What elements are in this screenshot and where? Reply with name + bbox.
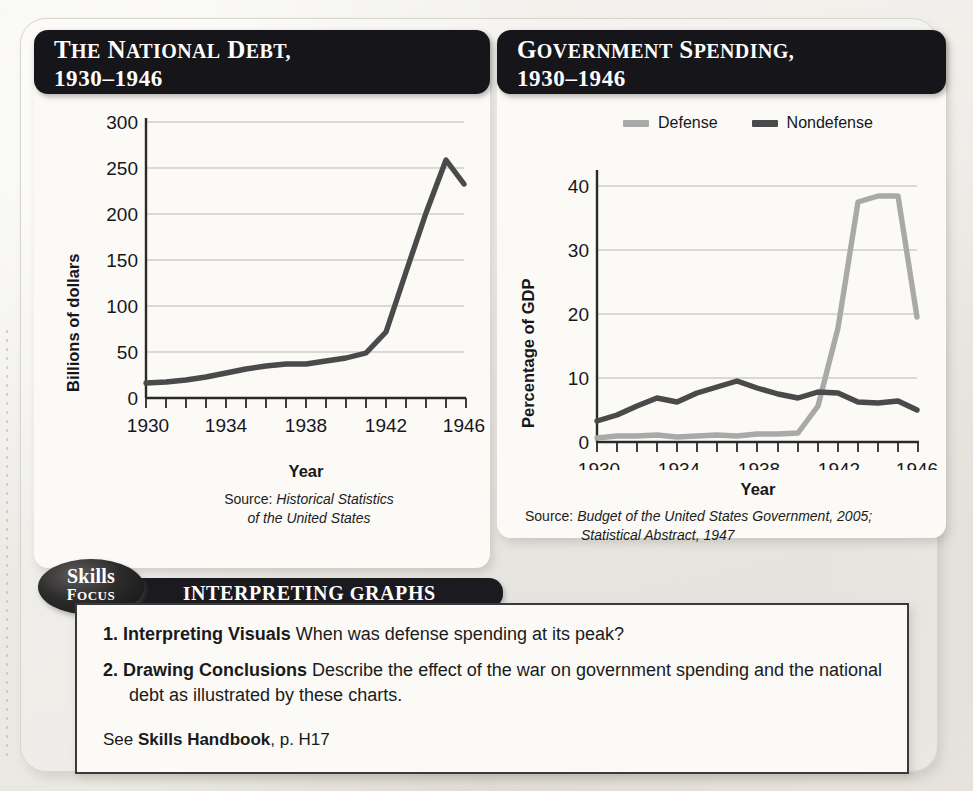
question-item-1: 1. Interpreting Visuals When was defense… [103,622,889,647]
legend-swatch-defense [623,120,649,127]
chart-title-line1: THE NATIONAL DEBT, [54,36,291,63]
national-debt-line [146,160,464,383]
government-spending-x-axis-title: Year [597,480,919,499]
svg-text:300: 300 [106,112,138,133]
y-tick-labels: 40 30 20 10 0 [568,176,589,453]
svg-text:200: 200 [106,204,138,225]
skills-badge-line2: FOCUS [38,586,144,604]
chart-title-bar-government-spending: GOVERNMENT SPENDING, 1930–1946 [497,30,946,94]
svg-text:40: 40 [568,176,589,197]
x-tick-labels: 1930 1934 1938 1942 1946 [127,415,485,436]
x-minor-ticks [597,442,918,452]
source-line-1: Historical Statistics [276,491,393,507]
see-link-label[interactable]: Skills Handbook [138,730,270,749]
x-tick-labels: 1930 1934 1938 1942 1946 [578,459,938,470]
nondefense-line [597,381,917,421]
legend-item-nondefense[interactable]: Nondefense [752,114,873,132]
svg-text:150: 150 [106,250,138,271]
chart-title-line2: 1930–1946 [517,66,936,91]
page-edge-artifact [6,330,8,760]
national-debt-y-axis-title: Billions of dollars [64,254,83,392]
legend-item-defense[interactable]: Defense [623,114,718,132]
svg-text:1942: 1942 [818,459,860,470]
question-2-number: 2. [103,660,118,680]
government-spending-legend: Defense Nondefense [623,114,873,132]
chart-panel-government-spending: GOVERNMENT SPENDING, 1930–1946 Defense N… [497,30,946,538]
national-debt-source: Source: Historical Statistics of the Uni… [144,490,474,528]
chart-title-line1: GOVERNMENT SPENDING, [517,36,794,63]
svg-text:1930: 1930 [578,459,620,470]
source-line-2: of the United States [248,510,371,526]
chart-panel-national-debt: THE NATIONAL DEBT, 1930–1946 [34,30,490,568]
government-spending-y-axis-title: Percentage of GDP [519,279,538,428]
svg-text:1938: 1938 [285,415,327,436]
national-debt-plot: 300 250 200 150 100 50 0 1930 1934 1938 … [34,94,490,454]
chart-title-bar-national-debt: THE NATIONAL DEBT, 1930–1946 [34,30,490,94]
svg-text:1942: 1942 [365,415,407,436]
source-label: Source: [224,491,272,507]
x-minor-ticks [146,398,466,408]
svg-text:20: 20 [568,304,589,325]
national-debt-x-axis-title: Year [146,462,466,481]
svg-text:1946: 1946 [443,415,485,436]
svg-text:10: 10 [568,368,589,389]
question-1-term: Interpreting Visuals [123,624,291,644]
gridlines [597,186,917,378]
questions-list: 1. Interpreting Visuals When was defense… [103,622,889,719]
svg-text:0: 0 [127,388,138,409]
svg-text:1946: 1946 [896,459,938,470]
skills-badge-line1: Skills [38,565,144,588]
questions-box: 1. Interpreting Visuals When was defense… [75,603,909,774]
question-item-2: 2. Drawing Conclusions Describe the effe… [103,658,889,708]
legend-swatch-nondefense [752,120,778,127]
svg-text:250: 250 [106,158,138,179]
government-spending-source: Source: Budget of the United States Gove… [525,507,935,545]
question-1-text: When was defense spending at its peak? [296,624,624,644]
chart-title-government-spending: GOVERNMENT SPENDING, 1930–1946 [517,37,936,91]
source-line-1: Budget of the United States Government, … [577,508,872,524]
ribbon-text: INTERPRETING GRAPHS [183,583,436,604]
svg-text:1934: 1934 [658,459,701,470]
legend-label-nondefense: Nondefense [787,114,873,132]
see-suffix: , p. H17 [270,730,330,749]
svg-text:0: 0 [578,432,589,453]
svg-text:1938: 1938 [738,459,780,470]
government-spending-plot: 40 30 20 10 0 1930 1934 1938 1942 1946 [497,140,946,470]
skills-focus-ribbon-label: INTERPRETING GRAPHS [183,582,436,605]
source-label: Source: [525,508,573,524]
question-1-number: 1. [103,624,118,644]
svg-text:100: 100 [106,296,138,317]
legend-label-defense: Defense [658,114,718,132]
see-prefix: See [103,730,138,749]
chart-title-line2: 1930–1946 [54,66,480,91]
y-tick-labels: 300 250 200 150 100 50 0 [106,112,138,409]
skills-handbook-reference: See Skills Handbook, p. H17 [103,730,330,750]
svg-text:30: 30 [568,240,589,261]
chart-title-national-debt: THE NATIONAL DEBT, 1930–1946 [54,37,480,91]
question-2-term: Drawing Conclusions [123,660,307,680]
svg-text:1934: 1934 [205,415,248,436]
svg-text:1930: 1930 [127,415,169,436]
svg-text:50: 50 [117,342,138,363]
source-line-2: Statistical Abstract, 1947 [581,527,735,543]
